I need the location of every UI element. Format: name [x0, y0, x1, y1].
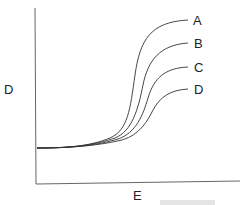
curve-label-a: A [193, 13, 202, 28]
y-axis [35, 8, 36, 184]
sigmoid-curves-chart: A B C D D E [0, 0, 241, 205]
x-axis [36, 181, 240, 184]
curve-label-c: C [194, 60, 203, 75]
caption-fragment [160, 200, 215, 205]
curve-label-d: D [194, 82, 203, 97]
curve-c [37, 67, 188, 148]
y-axis-label: D [4, 82, 13, 97]
x-axis-label: E [133, 188, 142, 203]
curve-label-b: B [194, 36, 203, 51]
curve-a [37, 20, 188, 148]
